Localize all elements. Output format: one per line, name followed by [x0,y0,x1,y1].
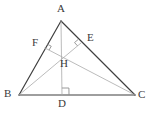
right-angle-mark-e [75,40,78,46]
geometry-figure: A B C D E F H [0,0,150,115]
vertex-label-e: E [87,32,94,43]
vertex-label-d: D [58,98,66,109]
vertex-label-b: B [4,88,11,99]
vertex-label-c: C [138,89,145,100]
vertex-label-f: F [32,37,38,48]
right-angle-mark-d [62,88,69,95]
vertex-label-h-orthocenter: H [60,58,68,69]
geometry-canvas [0,0,150,115]
altitude-c-to-f [45,48,135,95]
triangle-side-ac [61,21,135,95]
triangle-side-ab [19,21,61,95]
vertex-label-a: A [57,3,65,14]
